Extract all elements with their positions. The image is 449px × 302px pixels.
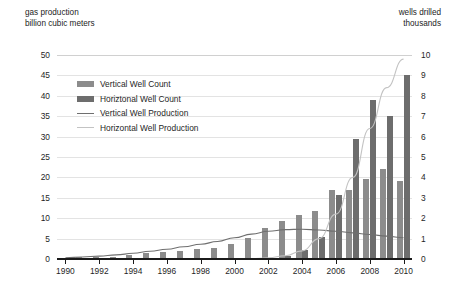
- legend-bar-swatch-icon: [77, 81, 94, 87]
- legend-item-label: Horiztonal Well Count: [100, 94, 181, 104]
- right-axis-caption: wells drilled thousands: [399, 7, 441, 29]
- legend-line-swatch-icon: [77, 127, 94, 128]
- x-axis-tick-label: 2000: [225, 266, 244, 276]
- right-axis-tick-label: 0: [421, 254, 426, 264]
- x-axis-tick-label: 1992: [90, 266, 109, 276]
- right-axis-caption-line2: thousands: [399, 18, 441, 29]
- legend-line-swatch-icon: [77, 113, 94, 114]
- right-axis-tick-label: 2: [421, 213, 426, 223]
- x-axis-tick-label: 1996: [158, 266, 177, 276]
- right-axis-tick-label: 5: [421, 152, 426, 162]
- left-axis-caption: gas production billion cubic meters: [25, 7, 95, 29]
- right-axis-tick-label: 8: [421, 91, 426, 101]
- x-axis-tick: [370, 259, 371, 264]
- legend-bar-swatch-icon: [77, 96, 94, 102]
- x-axis-tick-label: 1994: [124, 266, 143, 276]
- left-axis-tick-label: 10: [41, 213, 50, 223]
- x-axis-tick: [302, 259, 303, 264]
- left-axis-tick-label: 30: [41, 132, 50, 142]
- left-axis-tick-label: 25: [41, 152, 50, 162]
- x-axis-tick-label: 1990: [56, 266, 75, 276]
- left-axis-tick-label: 5: [45, 234, 50, 244]
- right-axis-caption-line1: wells drilled: [399, 7, 441, 18]
- legend-item: Horiztonal Well Count: [77, 94, 199, 104]
- x-axis-tick-label: 1998: [191, 266, 210, 276]
- legend-item-label: Vertical Well Count: [100, 79, 171, 89]
- right-axis-tick-label: 3: [421, 193, 426, 203]
- x-axis-tick: [99, 259, 100, 264]
- right-axis-tick-label: 10: [421, 50, 430, 60]
- x-axis-tick-label: 2008: [360, 266, 379, 276]
- right-axis-tick-label: 1: [421, 234, 426, 244]
- left-axis-tick-label: 50: [41, 50, 50, 60]
- left-axis-tick-label: 20: [41, 172, 50, 182]
- x-axis-tick: [201, 259, 202, 264]
- right-axis-tick-label: 4: [421, 172, 426, 182]
- x-axis-tick: [268, 259, 269, 264]
- left-axis-tick-label: 35: [41, 111, 50, 121]
- legend-item-label: Horizontal Well Production: [100, 123, 199, 133]
- right-axis-tick-label: 9: [421, 70, 426, 80]
- left-axis-caption-line2: billion cubic meters: [25, 18, 95, 29]
- x-axis-tick-label: 2002: [259, 266, 278, 276]
- line-vertical-well-production: [65, 229, 403, 258]
- left-axis-tick-label: 40: [41, 91, 50, 101]
- left-axis-caption-line1: gas production: [25, 7, 95, 18]
- x-axis-tick: [336, 259, 337, 264]
- legend-item: Horizontal Well Production: [77, 123, 199, 133]
- left-axis-tick-label: 45: [41, 70, 50, 80]
- x-axis-tick-label: 2006: [327, 266, 346, 276]
- x-axis-tick-label: 2010: [394, 266, 413, 276]
- right-axis-tick-label: 7: [421, 111, 426, 121]
- x-axis-tick: [167, 259, 168, 264]
- x-axis-tick: [235, 259, 236, 264]
- chart-legend: Vertical Well CountHoriztonal Well Count…: [77, 79, 199, 133]
- left-axis-tick-label: 15: [41, 193, 50, 203]
- right-axis-tick-label: 6: [421, 132, 426, 142]
- left-axis-tick-label: 0: [45, 254, 50, 264]
- x-axis-tick: [65, 259, 66, 264]
- legend-item-label: Vertical Well Production: [100, 108, 188, 118]
- legend-item: Vertical Well Production: [77, 108, 199, 118]
- chart-figure: gas production billion cubic meters well…: [0, 0, 449, 302]
- legend-item: Vertical Well Count: [77, 79, 199, 89]
- x-axis-tick: [404, 259, 405, 264]
- x-axis-tick-label: 2004: [293, 266, 312, 276]
- x-axis-tick: [133, 259, 134, 264]
